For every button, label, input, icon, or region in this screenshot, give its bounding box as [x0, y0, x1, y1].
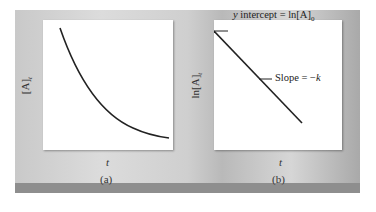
intercept-annotation: y intercept = ln[A]0 — [233, 9, 314, 23]
y-axis-label-b: ln[A]t — [189, 73, 204, 99]
plot-a-area — [43, 20, 173, 150]
bottom-bar — [15, 183, 360, 193]
caption-b: (b) — [272, 173, 285, 185]
slope-annotation: Slope = −k — [275, 72, 321, 83]
caption-a: (a) — [100, 173, 112, 185]
x-axis-label-a: t — [106, 156, 109, 168]
plot-b-area — [214, 20, 342, 150]
x-axis-label-b: t — [279, 156, 282, 168]
decay-curve — [43, 20, 173, 150]
y-axis-label-a: [A]t — [19, 77, 34, 94]
linear-plot — [214, 20, 342, 150]
